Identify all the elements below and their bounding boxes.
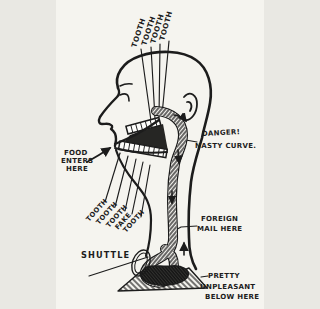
label-unpleasant-line-2: UNPLEASANT [200,283,255,291]
label-danger-line-1: DANGER! [202,128,241,138]
label-shuttle: SHUTTLE [81,250,130,260]
face-profile-nose [99,88,119,146]
label-food-line-3: HERE [66,165,88,173]
closed-eye [120,94,129,101]
head-throat-drawing: TOOTH TOOTH TOOTH TOOTH FOOD ENTERS HERE… [56,0,264,309]
label-danger-line-2: NASTY CURVE. [195,142,256,150]
label-unpleasant-line-1: PRETTY [208,272,241,280]
tooth-top-leader-3 [159,44,160,117]
label-foreign-line-2: MAIL HERE [197,225,242,233]
mouth [115,117,168,157]
pretty-leader [201,276,208,277]
label-food-line-2: ENTERS [61,157,93,165]
ear [182,94,197,120]
eyebrow [120,84,132,86]
jaw-and-neck-front [116,150,151,256]
cartoon-diagram: TOOTH TOOTH TOOTH TOOTH FOOD ENTERS HERE… [56,0,264,309]
label-food-line-1: FOOD [64,149,88,157]
flow-down-arrow-1 [178,150,179,163]
head-outline [99,52,211,269]
label-unpleasant-line-3: BELOW HERE [205,293,259,301]
label-foreign-line-1: FOREIGN [201,215,238,223]
tooth-top-leader-1 [141,49,151,121]
